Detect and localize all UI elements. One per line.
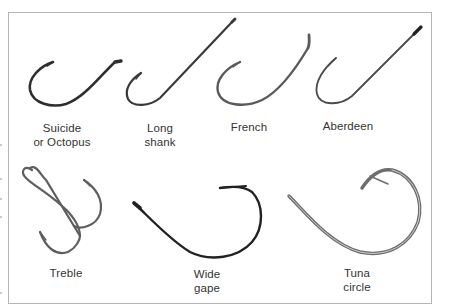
hook-label-long-shank: Long shank bbox=[130, 121, 190, 149]
hook-label-aberdeen: Aberdeen bbox=[312, 119, 384, 133]
hook-label-french: French bbox=[214, 120, 284, 134]
aberdeen-hook-icon bbox=[316, 27, 421, 103]
french-hook-icon bbox=[218, 35, 310, 105]
tuna-circle-hook-icon bbox=[289, 170, 420, 254]
hook-label-tuna-circle: Tuna circle bbox=[332, 266, 382, 294]
treble-hook-icon bbox=[23, 167, 101, 253]
wide-gape-hook-icon bbox=[134, 186, 261, 257]
hook-label-wide-gape: Wide gape bbox=[182, 267, 232, 295]
suicide-hook-icon bbox=[30, 61, 121, 105]
hook-label-suicide: Suicide or Octopus bbox=[22, 121, 102, 149]
hooks-illustration bbox=[0, 0, 450, 308]
hook-label-treble: Treble bbox=[36, 266, 96, 280]
